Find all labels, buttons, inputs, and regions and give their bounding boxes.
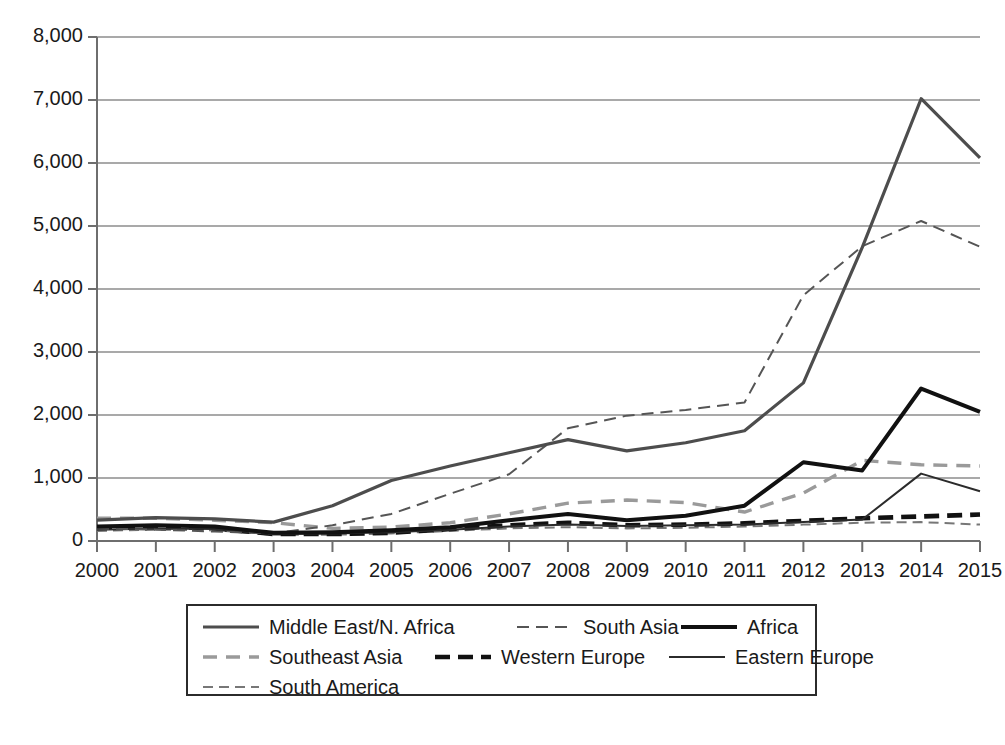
x-axis-tick-label: 2000 xyxy=(67,559,127,582)
legend-line-swatch xyxy=(434,650,492,664)
legend-item[interactable]: Eastern Europe xyxy=(668,642,874,672)
series-line-eastern-europe xyxy=(97,474,980,534)
legend-label: Africa xyxy=(747,616,798,639)
legend-label: South America xyxy=(269,676,399,699)
y-axis-tick-label: 8,000 xyxy=(33,24,83,47)
y-axis-tick-label: 7,000 xyxy=(33,87,83,110)
legend-item[interactable]: South America xyxy=(202,672,399,702)
x-axis-tick-label: 2013 xyxy=(832,559,892,582)
x-axis-tick-label: 2002 xyxy=(185,559,245,582)
x-axis-tick-label: 2014 xyxy=(891,559,951,582)
legend-item[interactable]: Western Europe xyxy=(434,642,645,672)
x-axis-tick-label: 2008 xyxy=(538,559,598,582)
x-axis-tick-label: 2007 xyxy=(479,559,539,582)
line-chart: 01,0002,0003,0004,0005,0006,0007,0008,00… xyxy=(0,0,1005,745)
legend-label: Southeast Asia xyxy=(269,646,402,669)
legend-item[interactable]: Southeast Asia xyxy=(202,642,402,672)
x-axis-tick-label: 2004 xyxy=(302,559,362,582)
series-line-south-asia xyxy=(97,221,980,533)
legend-label: Western Europe xyxy=(501,646,645,669)
legend-item[interactable]: Africa xyxy=(680,612,798,642)
x-axis-tick-label: 2010 xyxy=(656,559,716,582)
x-axis-tick-label: 2012 xyxy=(773,559,833,582)
legend-item[interactable]: South Asia xyxy=(516,612,679,642)
x-axis-tick-label: 2011 xyxy=(715,559,775,582)
y-axis-tick-label: 0 xyxy=(72,528,83,551)
legend-item[interactable]: Middle East/N. Africa xyxy=(202,612,455,642)
x-axis-tick-label: 2001 xyxy=(126,559,186,582)
x-axis-tick-label: 2006 xyxy=(420,559,480,582)
y-axis-tick-label: 4,000 xyxy=(33,276,83,299)
y-axis-tick-label: 2,000 xyxy=(33,402,83,425)
x-axis-tick-label: 2003 xyxy=(244,559,304,582)
x-axis-tick-label: 2015 xyxy=(950,559,1005,582)
x-axis-tick-label: 2009 xyxy=(597,559,657,582)
chart-legend: Middle East/N. AfricaSouth AsiaAfricaSou… xyxy=(186,604,817,696)
legend-line-swatch xyxy=(202,620,260,634)
legend-line-swatch xyxy=(680,620,738,634)
legend-line-swatch xyxy=(668,650,726,664)
y-axis-tick-label: 1,000 xyxy=(33,465,83,488)
legend-line-swatch xyxy=(516,620,574,634)
y-axis-tick-label: 3,000 xyxy=(33,339,83,362)
legend-label: South Asia xyxy=(583,616,679,639)
legend-line-swatch xyxy=(202,680,260,694)
legend-label: Middle East/N. Africa xyxy=(269,616,455,639)
legend-label: Eastern Europe xyxy=(735,646,874,669)
y-axis-tick-label: 6,000 xyxy=(33,150,83,173)
y-axis-tick-label: 5,000 xyxy=(33,213,83,236)
x-axis-tick-label: 2005 xyxy=(361,559,421,582)
series-line-africa xyxy=(97,389,980,533)
legend-line-swatch xyxy=(202,650,260,664)
